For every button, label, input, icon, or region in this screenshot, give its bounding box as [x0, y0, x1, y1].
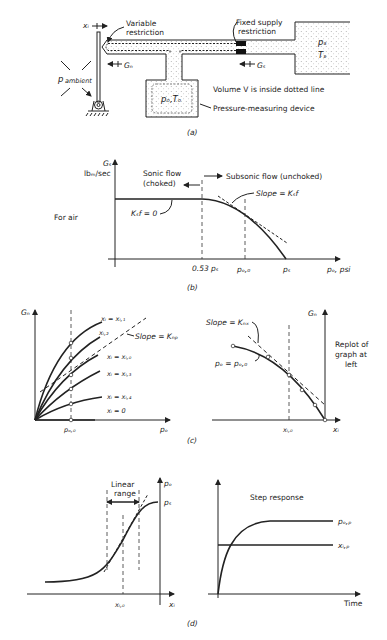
gn-label: Gₙ — [124, 61, 133, 70]
svg-text:Slope = Kₙₓ: Slope = Kₙₓ — [206, 318, 250, 327]
svg-text:0.53 pₛ: 0.53 pₛ — [192, 264, 219, 273]
svg-text:pₛ: pₛ — [282, 265, 291, 274]
svg-text:pₒ = pₒ,₀: pₒ = pₒ,₀ — [214, 359, 247, 368]
svg-text:restriction: restriction — [238, 27, 276, 36]
fixed-restriction — [236, 41, 246, 46]
panel-d-right: Step response pₒ,ₚ xᵢ,ₚ Time (d) — [187, 480, 363, 628]
svg-text:Gₙ: Gₙ — [21, 308, 30, 317]
svg-text:Replot of: Replot of — [335, 340, 369, 349]
panel-d-left: pₒ pₛ Linear range xᵢ,₀ xᵢ — [27, 478, 175, 609]
subsonic-label: Subsonic flow (unchoked) — [226, 172, 322, 181]
svg-text:Linear: Linear — [111, 480, 135, 489]
svg-text:pₒ,₀: pₒ,₀ — [236, 265, 250, 274]
svg-text:xᵢ,₀: xᵢ,₀ — [114, 601, 125, 609]
svg-text:xᵢ,ₚ: xᵢ,ₚ — [337, 541, 349, 550]
svg-text:xᵢ,₂: xᵢ,₂ — [98, 329, 109, 337]
panel-b: Gₛ lbₘ/sec For air Sonic flow (choked) S… — [54, 159, 351, 292]
svg-text:Slope = Kₛf: Slope = Kₛf — [256, 189, 300, 198]
fixed-supply-label: Fixed supply — [236, 18, 283, 27]
svg-text:(choked): (choked) — [143, 179, 176, 188]
caption-d: (d) — [187, 619, 198, 628]
svg-text:xᵢ: xᵢ — [332, 425, 339, 434]
xi-label: xᵢ — [82, 21, 89, 30]
po-curve — [218, 521, 333, 594]
panel-a: pₒ,Tₒ xᵢ Variable restriction Gₙ Fixed s… — [57, 18, 350, 137]
variable-restriction-label: Variable — [126, 19, 157, 28]
caption-a: (a) — [187, 128, 198, 137]
step-response-title: Step response — [250, 493, 304, 502]
gs-label: Gₛ — [257, 61, 266, 70]
flapper — [97, 32, 100, 102]
svg-text:pₒ,ₚ: pₒ,ₚ — [337, 517, 351, 526]
svg-text:pₒ: pₒ — [163, 479, 172, 488]
panel-c-left: Gₙ xᵢ = xᵢ,₁ xᵢ,₂ xᵢ = xᵢ,₀ xᵢ = xᵢ,₃ xᵢ… — [21, 308, 178, 434]
svg-text:xᵢ = xᵢ,₃: xᵢ = xᵢ,₃ — [106, 370, 132, 378]
svg-text:Sonic flow: Sonic flow — [143, 169, 181, 178]
svg-text:xᵢ,₀: xᵢ,₀ — [282, 426, 293, 434]
svg-text:Gₙ: Gₙ — [308, 309, 317, 318]
ambient-label: p — [57, 74, 63, 84]
svg-text:xᵢ = xᵢ,₀: xᵢ = xᵢ,₀ — [106, 353, 132, 361]
pipe — [107, 40, 297, 54]
svg-text:Kₛf = 0: Kₛf = 0 — [131, 209, 157, 218]
svg-text:Slope = Kₙₚ: Slope = Kₙₚ — [135, 332, 178, 341]
supply-tank — [295, 22, 350, 74]
svg-text:left: left — [345, 360, 357, 369]
svg-text:graph at: graph at — [335, 350, 367, 359]
svg-text:xᵢ = xᵢ,₁: xᵢ = xᵢ,₁ — [100, 315, 126, 323]
svg-text:pₛ: pₛ — [163, 498, 172, 507]
volume-note: Volume V is inside dotted line — [213, 85, 325, 94]
device-label: Pressure-measuring device — [213, 104, 315, 113]
svg-text:Tₛ: Tₛ — [318, 50, 326, 60]
svg-text:xᵢ = 0: xᵢ = 0 — [106, 407, 126, 415]
svg-text:lbₘ/sec: lbₘ/sec — [84, 169, 111, 178]
svg-text:pₛ: pₛ — [317, 37, 327, 47]
for-air-label: For air — [54, 213, 79, 222]
po-to-label: pₒ,Tₒ — [160, 94, 182, 104]
caption-c: (c) — [187, 436, 197, 445]
b-ylabel: Gₛ — [103, 159, 112, 168]
svg-text:pₒ,₀: pₒ,₀ — [63, 426, 76, 434]
caption-b: (b) — [187, 283, 198, 292]
svg-text:range: range — [114, 489, 136, 498]
svg-text:xᵢ: xᵢ — [168, 600, 175, 609]
gs-curve — [115, 199, 286, 259]
svg-text:pₒ, psi: pₒ, psi — [326, 265, 351, 274]
figure: pₒ,Tₒ xᵢ Variable restriction Gₙ Fixed s… — [0, 0, 387, 640]
svg-text:pₒ: pₒ — [159, 425, 168, 434]
svg-text:ambient: ambient — [65, 77, 92, 85]
svg-text:restriction: restriction — [126, 28, 164, 37]
panel-c-right: Gₙ Slope = Kₙₓ pₒ = pₒ,₀ Replot of graph… — [187, 309, 369, 445]
svg-text:Time: Time — [343, 599, 363, 608]
svg-text:xᵢ = xᵢ,₄: xᵢ = xᵢ,₄ — [106, 393, 132, 401]
